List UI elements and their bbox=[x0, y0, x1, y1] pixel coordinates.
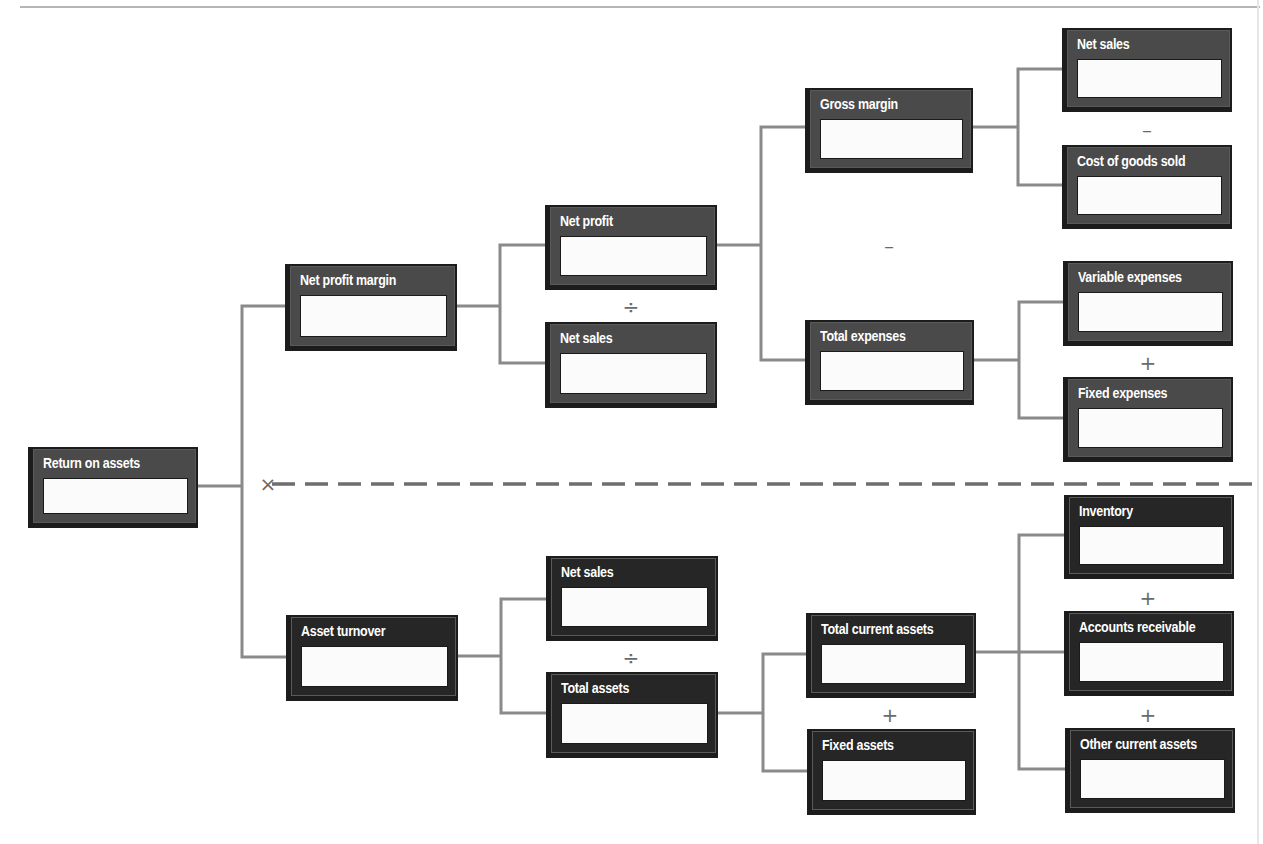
node-label: Fixed expenses bbox=[1078, 385, 1206, 401]
value-field-total-current-assets[interactable] bbox=[821, 644, 966, 684]
divide-operator-icon: ÷ bbox=[621, 297, 641, 317]
connector-te-ve bbox=[1019, 302, 1063, 360]
node-total-current-assets: Total current assets bbox=[806, 613, 976, 698]
node-label: Total expenses bbox=[820, 328, 947, 344]
value-field-fixed-assets[interactable] bbox=[822, 760, 966, 801]
connector-np-te bbox=[761, 245, 805, 360]
value-field-variable-expenses[interactable] bbox=[1078, 292, 1223, 332]
node-label: Accounts receivable bbox=[1079, 619, 1207, 635]
node-label: Return on assets bbox=[43, 455, 171, 471]
connector-roa-at bbox=[242, 486, 286, 657]
node-label: Gross margin bbox=[820, 96, 946, 112]
value-field-other-current-assets[interactable] bbox=[1080, 759, 1225, 799]
node-label: Other current assets bbox=[1080, 736, 1208, 752]
node-label: Variable expenses bbox=[1078, 269, 1206, 285]
value-field-asset-turnover[interactable] bbox=[301, 646, 448, 687]
value-field-net-sales-gross[interactable] bbox=[1077, 59, 1222, 98]
node-gross-margin: Gross margin bbox=[805, 88, 973, 173]
value-field-net-sales-margin[interactable] bbox=[560, 353, 707, 394]
node-cost-of-goods-sold: Cost of goods sold bbox=[1062, 145, 1232, 229]
value-field-return-on-assets[interactable] bbox=[43, 478, 188, 514]
value-field-gross-margin[interactable] bbox=[820, 119, 963, 159]
node-inventory: Inventory bbox=[1064, 495, 1234, 579]
value-field-fixed-expenses[interactable] bbox=[1078, 408, 1223, 448]
connector-npm-ns1 bbox=[500, 306, 545, 363]
minus-operator-icon: – bbox=[879, 236, 899, 256]
connector-gm-cogs bbox=[1018, 127, 1062, 185]
connector-gm-ns3 bbox=[1018, 69, 1062, 127]
node-accounts-receivable: Accounts receivable bbox=[1064, 611, 1234, 696]
node-total-expenses: Total expenses bbox=[805, 320, 974, 405]
connector-te-fe bbox=[1019, 360, 1063, 418]
node-net-profit: Net profit bbox=[545, 205, 717, 290]
value-field-cost-of-goods-sold[interactable] bbox=[1077, 176, 1222, 215]
value-field-total-assets[interactable] bbox=[561, 703, 708, 744]
divide-operator-icon: ÷ bbox=[621, 648, 641, 668]
plus-operator-icon: + bbox=[1138, 705, 1158, 725]
node-fixed-assets: Fixed assets bbox=[807, 729, 976, 815]
plus-operator-icon: + bbox=[880, 705, 900, 725]
node-label: Fixed assets bbox=[822, 737, 949, 753]
plus-operator-icon: + bbox=[1138, 353, 1158, 373]
multiply-operator-icon: × bbox=[258, 474, 278, 494]
node-label: Inventory bbox=[1079, 503, 1207, 519]
minus-operator-icon: – bbox=[1137, 120, 1157, 140]
node-fixed-expenses: Fixed expenses bbox=[1063, 377, 1233, 462]
value-field-net-profit-margin[interactable] bbox=[300, 295, 447, 337]
node-net-profit-margin: Net profit margin bbox=[285, 264, 457, 351]
node-label: Net profit margin bbox=[300, 272, 430, 288]
value-field-net-profit[interactable] bbox=[560, 236, 707, 276]
connector-np-gm bbox=[761, 127, 805, 245]
node-net-sales-turnover: Net sales bbox=[546, 556, 718, 641]
value-field-inventory[interactable] bbox=[1079, 526, 1224, 565]
node-label: Net sales bbox=[560, 330, 690, 346]
node-label: Total assets bbox=[561, 680, 691, 696]
node-variable-expenses: Variable expenses bbox=[1063, 261, 1233, 346]
value-field-net-sales-turnover[interactable] bbox=[561, 587, 708, 627]
value-field-total-expenses[interactable] bbox=[820, 351, 964, 391]
node-net-sales-gross: Net sales bbox=[1062, 28, 1232, 112]
roa-decomposition-diagram: Return on assets Net profit margin Asset… bbox=[0, 0, 1263, 844]
node-label: Asset turnover bbox=[301, 623, 431, 639]
node-label: Net sales bbox=[561, 564, 691, 580]
connector-tca-oca bbox=[1019, 652, 1065, 769]
connector-at-ns2 bbox=[501, 599, 546, 656]
node-label: Cost of goods sold bbox=[1077, 153, 1205, 169]
node-other-current-assets: Other current assets bbox=[1065, 728, 1235, 813]
node-total-assets: Total assets bbox=[546, 672, 718, 758]
value-field-accounts-receivable[interactable] bbox=[1079, 642, 1224, 682]
node-label: Net sales bbox=[1077, 36, 1205, 52]
connector-ta-fa bbox=[763, 713, 807, 771]
node-asset-turnover: Asset turnover bbox=[286, 615, 458, 701]
plus-operator-icon: + bbox=[1138, 588, 1158, 608]
node-label: Net profit bbox=[560, 213, 690, 229]
node-return-on-assets: Return on assets bbox=[28, 447, 198, 528]
connector-npm-np bbox=[500, 245, 545, 306]
connector-at-ta bbox=[501, 656, 546, 713]
connector-roa-npm bbox=[242, 306, 285, 486]
node-label: Total current assets bbox=[821, 621, 949, 637]
connector-ta-tca bbox=[763, 654, 806, 713]
node-net-sales-margin: Net sales bbox=[545, 322, 717, 408]
connector-tca-inv bbox=[1019, 535, 1064, 652]
